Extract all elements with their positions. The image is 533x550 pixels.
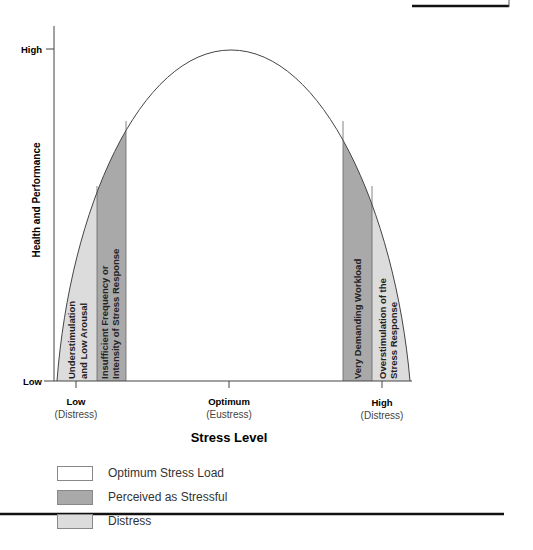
y-high-label: High: [21, 44, 42, 55]
region-label-insufficient-2: Intensity of Stress Response: [110, 249, 121, 379]
x-high-sublabel: (Distress): [361, 410, 404, 421]
region-label-understimulation-1: Understimulation: [66, 301, 77, 379]
region-label-overstimulation-1: Overstimulation of the: [377, 278, 388, 379]
region-label-overstimulation-2: Stress Response: [388, 302, 399, 379]
region-label-very-demanding: Very Demanding Workload: [352, 259, 363, 379]
legend-item-distress: Distress: [57, 509, 227, 533]
y-axis-title: Health and Performance: [31, 142, 42, 257]
legend: Optimum Stress Load Perceived as Stressf…: [57, 461, 227, 533]
legend-label-stressful: Perceived as Stressful: [108, 490, 227, 504]
legend-swatch-distress: [57, 514, 93, 529]
x-optimum-label: Optimum: [208, 396, 250, 407]
y-low-label: Low: [23, 376, 43, 387]
x-axis-title: Stress Level: [191, 430, 268, 445]
region-label-understimulation-2: and Low Arousal: [78, 303, 89, 379]
x-optimum-sublabel: (Eustress): [206, 409, 252, 420]
legend-swatch-stressful: [57, 490, 93, 505]
legend-item-stressful: Perceived as Stressful: [57, 485, 227, 509]
legend-item-optimum: Optimum Stress Load: [57, 461, 227, 485]
legend-label-distress: Distress: [108, 514, 151, 528]
x-low-sublabel: (Distress): [55, 409, 98, 420]
x-high-label: High: [371, 397, 392, 408]
legend-swatch-optimum: [57, 466, 93, 481]
region-label-insufficient-1: Insufficient Frequency or: [99, 265, 110, 379]
x-low-label: Low: [67, 396, 87, 407]
legend-label-optimum: Optimum Stress Load: [108, 466, 224, 480]
